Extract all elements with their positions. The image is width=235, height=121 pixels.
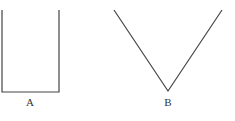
label-b: B bbox=[164, 96, 171, 108]
diagram-canvas bbox=[0, 0, 235, 121]
shape-a-u bbox=[2, 10, 59, 92]
shape-b-v bbox=[114, 10, 222, 91]
label-a: A bbox=[26, 96, 34, 108]
